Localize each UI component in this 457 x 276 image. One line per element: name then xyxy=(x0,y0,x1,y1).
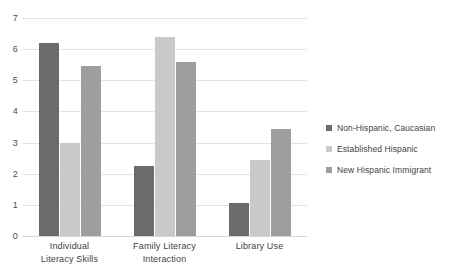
x-axis-category-label: Family LiteracyInteraction xyxy=(117,238,212,274)
x-axis-label-line: Individual xyxy=(22,240,117,253)
bar[interactable] xyxy=(229,203,249,236)
y-axis-tick-label: 3 xyxy=(13,138,18,148)
bar-group xyxy=(117,18,212,236)
bar[interactable] xyxy=(81,66,101,236)
bar-chart-figure: 76543210 IndividualLiteracy SkillsFamily… xyxy=(0,0,457,276)
x-axis-category-label: IndividualLiteracy Skills xyxy=(22,238,117,274)
bar[interactable] xyxy=(271,129,291,236)
y-axis-tick-label: 7 xyxy=(13,13,18,23)
x-axis-label-line: Interaction xyxy=(117,253,212,266)
y-axis-tick-label: 5 xyxy=(13,75,18,85)
x-axis: IndividualLiteracy SkillsFamily Literacy… xyxy=(22,238,307,274)
x-axis-label-line: Literacy Skills xyxy=(22,253,117,266)
chart-legend: Non-Hispanic, CaucasianEstablished Hispa… xyxy=(326,121,457,184)
bar-group xyxy=(22,18,117,236)
bar-group xyxy=(212,18,307,236)
y-axis-tick-label: 1 xyxy=(13,200,18,210)
plot-area xyxy=(22,18,307,236)
bar[interactable] xyxy=(155,37,175,236)
x-axis-label-line: Library Use xyxy=(212,240,307,253)
legend-item-label: New Hispanic Immigrant xyxy=(337,165,431,175)
gridline xyxy=(22,236,307,237)
bar-groups xyxy=(22,18,307,236)
bar[interactable] xyxy=(134,166,154,236)
legend-item-label: Established Hispanic xyxy=(337,144,418,154)
plot-wrapper: 76543210 IndividualLiteracy SkillsFamily… xyxy=(0,0,310,276)
x-axis-label-line: Family Literacy xyxy=(117,240,212,253)
y-axis-tick-label: 6 xyxy=(13,44,18,54)
x-axis-category-label: Library Use xyxy=(212,238,307,274)
legend-swatch-icon xyxy=(326,167,332,173)
y-axis: 76543210 xyxy=(0,0,22,276)
bar[interactable] xyxy=(176,62,196,236)
bar[interactable] xyxy=(39,43,59,236)
legend-swatch-icon xyxy=(326,125,332,131)
y-axis-tick-label: 2 xyxy=(13,169,18,179)
legend-item-label: Non-Hispanic, Caucasian xyxy=(337,123,435,133)
bar[interactable] xyxy=(250,160,270,236)
y-axis-tick-label: 4 xyxy=(13,106,18,116)
bar-group-bars xyxy=(39,18,101,236)
bar-group-bars xyxy=(229,18,291,236)
y-axis-tick-label: 0 xyxy=(13,231,18,241)
legend-item[interactable]: New Hispanic Immigrant xyxy=(326,163,457,177)
legend-item[interactable]: Established Hispanic xyxy=(326,142,457,156)
legend-item[interactable]: Non-Hispanic, Caucasian xyxy=(326,121,457,135)
bar-group-bars xyxy=(134,18,196,236)
legend-swatch-icon xyxy=(326,146,332,152)
bar[interactable] xyxy=(60,143,80,236)
